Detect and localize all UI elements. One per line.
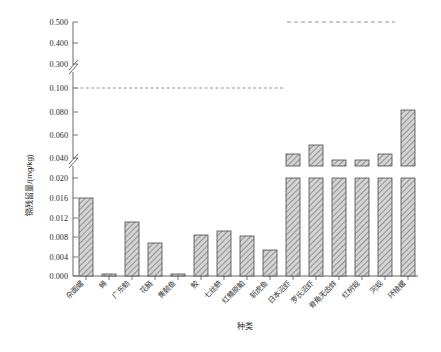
bar-segment [286,178,300,276]
chart-figure: 0.500 0.400 0.300 0.100 0.080 0.060 0.04… [0,0,441,352]
bar-segment [309,178,323,276]
bar-segment [401,178,415,276]
bar-segment [401,110,415,166]
bar-segment [240,236,254,276]
y-tick-label: 0.020 [50,174,68,183]
y-tick-label: 0.000 [50,272,68,281]
y-tick-label: 0.060 [50,131,68,140]
y-tick-label: 0.100 [50,84,68,93]
bar-segment [263,250,277,276]
bar-segment [332,160,346,166]
x-axis-title: 种类 [237,321,253,331]
bar-segment [102,274,116,276]
y-tick-label: 0.300 [50,60,68,69]
bar-segment [355,178,369,276]
bar-segment [217,231,231,276]
bar-segment [309,145,323,166]
bar-segment [286,154,300,166]
y-tick-label: 0.016 [50,194,68,203]
bar-segment [79,198,93,276]
bar-segment [194,235,208,276]
bar-segment [355,160,369,166]
bar-segment [378,154,392,166]
bar-segment [378,178,392,276]
y-tick-label: 0.008 [50,233,68,242]
bar-segment [148,243,162,276]
cadmium-residue-bar-chart: 0.500 0.400 0.300 0.100 0.080 0.060 0.04… [0,0,441,352]
bar-segment [171,274,185,276]
y-tick-label: 0.500 [50,18,68,27]
bar-segment [332,178,346,276]
y-tick-label: 0.080 [50,108,68,117]
y-tick-label: 0.040 [50,154,68,163]
y-tick-label: 0.400 [50,39,68,48]
y-tick-label: 0.012 [50,214,68,223]
bar-segment [125,222,139,276]
y-tick-label: 0.004 [50,253,68,262]
y-axis-title: 镉残留量/(mg/kg) [24,154,34,216]
